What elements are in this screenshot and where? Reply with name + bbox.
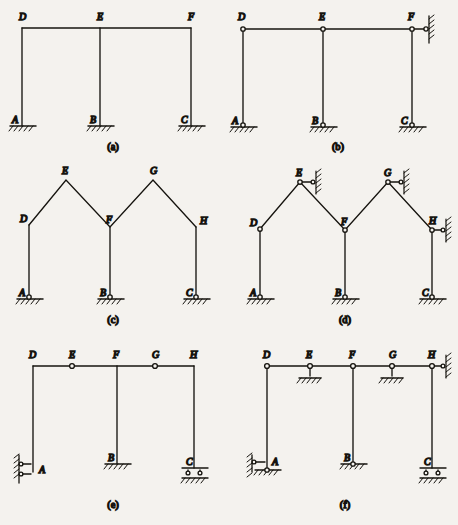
label-A: A: [271, 456, 279, 467]
figure-sheet: D E F A B C (a): [0, 0, 458, 525]
hinge-C: [410, 123, 414, 127]
hinge-E: [70, 364, 75, 369]
label-F: F: [187, 11, 195, 22]
hinge-B: [108, 295, 112, 299]
label-B: B: [108, 452, 114, 463]
panel-f-support-E: [297, 368, 321, 383]
label-F: F: [105, 214, 113, 225]
label-E: E: [96, 11, 103, 22]
panel-f-support-G: [379, 368, 403, 383]
label-H: H: [428, 215, 437, 226]
hinge-E: [308, 364, 313, 369]
label-F: F: [407, 11, 415, 22]
label-G: G: [389, 349, 396, 360]
label-C: C: [401, 115, 408, 126]
panel-e-support-C: [181, 468, 208, 483]
caption-c: (c): [107, 314, 119, 326]
structural-frames-figure: D E F A B C (a): [0, 0, 458, 525]
label-A: A: [18, 287, 26, 298]
label-F: F: [348, 349, 356, 360]
panel-a-support-A: [9, 126, 36, 131]
label-A: A: [231, 115, 239, 126]
panel-f: D E F G H A B C (f): [247, 349, 451, 511]
panel-f-link-H: [434, 353, 451, 378]
label-B: B: [100, 287, 106, 298]
label-B: B: [344, 452, 350, 463]
panel-e-support-A: [14, 454, 31, 483]
caption-b: (b): [332, 141, 345, 153]
label-D: D: [237, 11, 246, 22]
label-C: C: [424, 456, 431, 467]
caption-a: (a): [107, 141, 119, 153]
panel-d-frame: [260, 182, 432, 297]
label-B: B: [90, 114, 96, 125]
label-G: G: [384, 167, 391, 178]
panel-b-frame: [243, 29, 412, 125]
hinge-A: [258, 295, 262, 299]
label-E: E: [318, 11, 325, 22]
panel-b: D E F A B C (b): [230, 11, 434, 153]
panel-e-support-B: [104, 464, 131, 469]
panel-c: E G D F H A B C (c): [16, 165, 210, 326]
label-F: F: [340, 216, 348, 227]
hinge-G: [390, 364, 395, 369]
label-H: H: [199, 215, 208, 226]
label-D: D: [262, 349, 271, 360]
panel-a-support-B: [87, 126, 114, 131]
hinge-A: [265, 468, 269, 472]
caption-e: (e): [107, 499, 119, 511]
label-G: G: [150, 165, 157, 176]
label-B: B: [312, 115, 318, 126]
label-E: E: [61, 165, 68, 176]
panel-d-link-E: [302, 169, 321, 194]
label-G: G: [152, 349, 159, 360]
hinge-B: [321, 123, 325, 127]
hinge-D: [241, 27, 245, 31]
hinge-C: [194, 295, 198, 299]
hinge-B: [351, 462, 355, 466]
panel-c-frame: [29, 180, 196, 297]
hinge-F: [343, 228, 347, 232]
panel-b-link-F: [414, 15, 434, 43]
label-C: C: [422, 287, 429, 298]
label-F: F: [112, 349, 120, 360]
hinge-A: [241, 123, 245, 127]
hinge-D: [258, 227, 262, 231]
label-D: D: [19, 213, 28, 224]
hinge-H: [430, 228, 434, 232]
hinge-H: [430, 364, 435, 369]
hinge-E: [321, 27, 325, 31]
hinge-B: [343, 295, 347, 299]
label-H: H: [189, 349, 198, 360]
label-E: E: [305, 349, 312, 360]
label-D: D: [18, 11, 27, 22]
caption-d: (d): [339, 314, 352, 326]
label-E: E: [68, 349, 75, 360]
label-H: H: [427, 349, 436, 360]
label-D: D: [28, 349, 37, 360]
hinge-F: [351, 364, 356, 369]
panel-d-link-G: [390, 169, 409, 194]
label-A: A: [38, 464, 46, 475]
panel-d: E G D F H A B C (d): [247, 167, 451, 326]
hinge-C: [430, 295, 434, 299]
label-C: C: [186, 287, 193, 298]
panel-d-link-H: [434, 217, 451, 242]
label-A: A: [249, 287, 257, 298]
label-B: B: [335, 287, 341, 298]
caption-f: (f): [340, 499, 351, 511]
hinge-G: [153, 364, 158, 369]
hinge-A: [27, 295, 31, 299]
panel-a-frame: [22, 28, 191, 126]
panel-a-support-C: [178, 126, 205, 131]
label-C: C: [186, 456, 193, 467]
hinge-F: [410, 27, 414, 31]
label-E: E: [295, 167, 302, 178]
label-D: D: [249, 217, 258, 228]
label-C: C: [181, 114, 188, 125]
hinge-E: [298, 180, 302, 184]
panel-a: D E F A B C (a): [9, 11, 205, 153]
hinge-G: [386, 180, 390, 184]
panel-f-support-C: [419, 468, 446, 483]
label-A: A: [11, 114, 19, 125]
